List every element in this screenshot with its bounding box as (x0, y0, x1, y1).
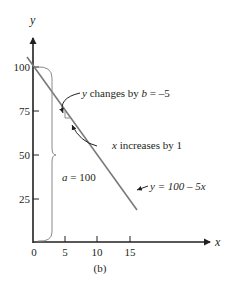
chart-canvas: y x 100 75 50 25 0 5 10 15 y changes by … (0, 0, 228, 292)
figure-caption: (b) (94, 262, 107, 275)
x-tick-label-15: 15 (125, 246, 137, 258)
intercept-annotation: a = 100 (62, 171, 96, 183)
run-annotation-arrow (72, 125, 97, 146)
equation-annotation-arrow (137, 186, 148, 190)
slope-annotation: y changes by b = –5 (81, 87, 170, 99)
y-tick-label-100: 100 (14, 61, 31, 73)
y-tick-label-75: 75 (19, 105, 31, 117)
y-axis-label: y (29, 13, 36, 27)
x-tick-label-0: 0 (31, 246, 37, 258)
x-ticks (65, 236, 130, 242)
y-tick-label-25: 25 (19, 193, 31, 205)
y-ticks (33, 67, 39, 199)
equation-annotation: y = 100 – 5x (149, 180, 206, 192)
x-tick-label-5: 5 (62, 246, 68, 258)
y-tick-label-50: 50 (19, 149, 31, 161)
x-axis-label: x (214, 235, 221, 249)
run-annotation: x increases by 1 (111, 139, 182, 151)
series-line (27, 57, 137, 210)
x-tick-label-10: 10 (92, 246, 104, 258)
